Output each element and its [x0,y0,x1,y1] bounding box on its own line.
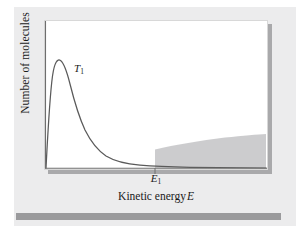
curve-label-subscript: 1 [80,67,84,76]
x-axis-label-text: Kinetic energy [118,190,186,202]
x-axis-label-symbol: E [186,190,194,202]
shaded-tail-region [155,134,266,168]
figure-container: Number of molecules Kinetic energyE E1 T… [0,0,296,233]
threshold-label-e1: E1 [142,172,170,184]
threshold-label-subscript: 1 [157,177,161,186]
curve-label-t1: T1 [74,62,84,74]
x-axis-label: Kinetic energyE [44,190,268,202]
y-axis-label: Number of molecules [19,3,31,123]
